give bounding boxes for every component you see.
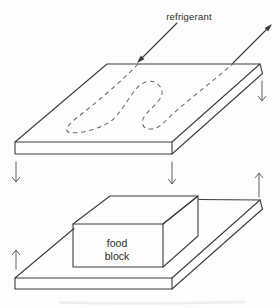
- top-plate-right-face: [172, 64, 263, 154]
- refrigerant-outlet-line: [233, 29, 268, 64]
- arrow-down-icon: [169, 162, 176, 184]
- top-plate: [15, 64, 263, 154]
- bottom-plate-rear-edge: [199, 200, 260, 201]
- top-plate-top-face: [15, 64, 260, 142]
- food-block-top-face: [73, 196, 198, 224]
- food-block-label-line1: food: [107, 237, 128, 249]
- bottom-plate-left-edge: [15, 229, 74, 279]
- scan-shadow: [60, 302, 244, 303]
- refrigerant-label: refrigerant: [166, 11, 212, 22]
- gap-middle-down-arrow: [169, 162, 176, 184]
- food-block-right-face: [163, 196, 198, 267]
- food-block-label-line2: block: [105, 250, 130, 262]
- bottom-left-up-arrow: [13, 250, 20, 269]
- top-plate-front-face: [15, 142, 172, 154]
- refrigerant-inlet-arrow: [137, 23, 177, 63]
- plate-side-down-arrow: [259, 81, 266, 101]
- arrow-up-icon: [13, 250, 20, 269]
- arrow-up-icon: [256, 173, 263, 197]
- gap-right-up-arrow: [256, 173, 263, 197]
- refrigerant-outlet-arrow: [233, 24, 272, 63]
- bottom-plate-right-edge: [172, 200, 260, 278]
- bottom-plate-front-face: [15, 278, 172, 289]
- bottom-plate: [15, 200, 263, 290]
- bottom-plate-right-corner: [172, 200, 263, 289]
- plate-freezer-diagram: refrigerant food block: [0, 0, 280, 308]
- diagram-canvas: refrigerant food block: [0, 0, 280, 308]
- arrow-down-icon: [13, 162, 20, 182]
- gap-left-down-arrow: [13, 162, 20, 182]
- refrigerant-inlet-line: [143, 23, 178, 58]
- arrow-down-icon: [259, 81, 266, 101]
- food-block: food block: [73, 196, 198, 267]
